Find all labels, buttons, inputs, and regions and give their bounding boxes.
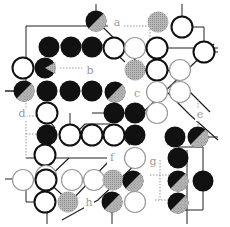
stone-black — [125, 125, 146, 146]
go-board-diagram: abcdefgh — [0, 0, 230, 227]
stone-white-thin — [147, 82, 168, 103]
stone-white — [104, 125, 125, 146]
stone-black — [82, 81, 103, 102]
label-b: b — [86, 64, 93, 77]
stone-grey — [148, 12, 169, 33]
stone-black — [165, 127, 186, 148]
label-a: a — [114, 16, 121, 29]
stone-white-thin — [125, 38, 146, 59]
stone-grey — [58, 192, 79, 213]
stone-black-half-grey — [188, 127, 213, 152]
stone-white — [13, 58, 34, 79]
stone-white — [147, 60, 168, 81]
stone-black — [37, 81, 58, 102]
stone-white — [104, 38, 125, 59]
stone-black — [125, 103, 146, 124]
stone-black-half-grey — [14, 81, 39, 106]
stone-white-thin — [62, 170, 83, 191]
stone-black-half-grey — [168, 171, 193, 196]
stone-white-thin — [84, 170, 105, 191]
stone-white — [37, 103, 58, 124]
stone-white-thin — [147, 103, 168, 124]
stone-black — [37, 125, 58, 146]
stone-white-thin — [170, 60, 191, 81]
label-c: c — [134, 87, 140, 100]
stone-white — [35, 145, 56, 166]
label-d: d — [18, 107, 25, 120]
stone-white — [60, 125, 81, 146]
stone-black-notch — [35, 58, 56, 79]
stone-white — [194, 42, 215, 63]
label-g: g — [149, 155, 156, 168]
stone-white — [147, 38, 168, 59]
stone-white-thin — [170, 82, 191, 103]
stone-white — [172, 17, 193, 38]
stones-layer — [13, 11, 215, 218]
stone-black — [61, 37, 82, 58]
stone-black — [82, 37, 103, 58]
stone-black-half-grey — [168, 193, 193, 218]
stone-grey — [125, 60, 146, 81]
label-h: h — [85, 196, 92, 209]
stone-white-thin — [125, 148, 146, 169]
stone-black — [39, 37, 60, 58]
stone-grey — [103, 170, 124, 191]
stone-black — [60, 81, 81, 102]
stone-white-thin — [13, 170, 34, 191]
stone-white — [35, 192, 56, 213]
stone-black — [193, 171, 214, 192]
stone-black — [104, 103, 125, 124]
stone-black-half-grey — [102, 192, 127, 217]
stone-white — [36, 170, 57, 191]
stone-white — [82, 125, 103, 146]
stone-black — [168, 148, 189, 169]
label-e: e — [197, 108, 204, 121]
stone-white-thin — [125, 192, 146, 213]
